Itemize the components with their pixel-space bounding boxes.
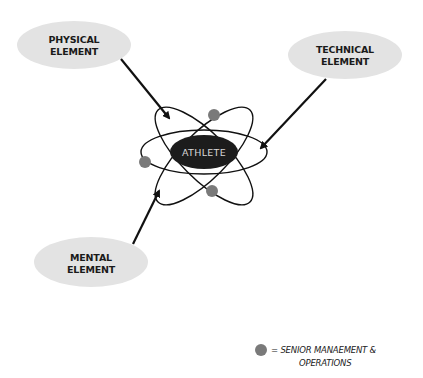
physical-element-node: PHYSICAL ELEMENT (17, 21, 131, 69)
legend: = SENIOR MANAEMENT & OPERATIONS (255, 344, 377, 368)
mental-element-label-line1: MENTAL (70, 252, 112, 263)
atom-diagram: PHYSICAL ELEMENT TECHNICAL ELEMENT MENTA… (0, 0, 423, 378)
technical-arrow (261, 79, 326, 148)
athlete-label: ATHLETE (182, 147, 226, 158)
physical-element-label-line2: ELEMENT (50, 46, 99, 57)
mental-element-node: MENTAL ELEMENT (34, 237, 148, 287)
technical-element-node: TECHNICAL ELEMENT (288, 31, 402, 79)
electron-circle-left (139, 156, 151, 168)
physical-arrow (121, 59, 169, 118)
legend-label-line1: = SENIOR MANAEMENT & (271, 345, 377, 355)
electron-circle-bottom (206, 185, 218, 197)
technical-element-label-line1: TECHNICAL (316, 44, 374, 55)
mental-arrow (133, 191, 159, 244)
mental-element-label-line2: ELEMENT (67, 264, 116, 275)
electron-circle-top (208, 109, 220, 121)
technical-element-label-line2: ELEMENT (321, 56, 370, 67)
legend-circle-icon (255, 344, 267, 356)
legend-label-line2: OPERATIONS (299, 358, 352, 368)
athlete-node: ATHLETE (170, 135, 238, 169)
physical-element-label-line1: PHYSICAL (49, 34, 100, 45)
